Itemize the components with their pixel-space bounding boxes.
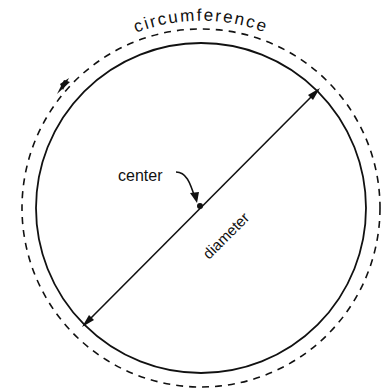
circumference-arrow-icon [57, 78, 70, 94]
center-pointer-arrowhead-icon [190, 192, 199, 203]
diameter-label: diameter [199, 209, 252, 262]
circle-diagram: center diameter circumference [0, 0, 390, 389]
center-point [197, 203, 203, 209]
center-label: center [118, 167, 163, 184]
circumference-label: circumference [131, 6, 271, 37]
